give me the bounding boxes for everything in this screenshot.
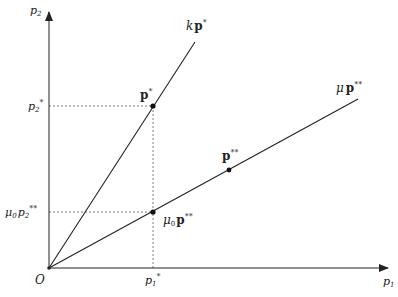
tick-label-p2-star: p2*: [28, 98, 44, 114]
point-label-mu0-p-double-star: μ0p**: [163, 212, 193, 228]
tick-label-p1-star: p1*: [145, 272, 161, 288]
point-p-double-star: [227, 168, 232, 173]
tick-label-mu0-p2-double-star: μ0p2**: [5, 204, 37, 220]
point-label-p-star: p*: [140, 87, 152, 102]
point-origin: [47, 266, 51, 270]
point-mu0-p-double-star: [150, 209, 155, 214]
ray-label-k-p-star: kp*: [186, 18, 207, 33]
origin-label: O: [35, 273, 45, 287]
ray-label-mu-p-double-star: μp**: [336, 80, 362, 95]
y-axis-label: p2: [30, 4, 42, 18]
x-axis-label: p1: [383, 275, 395, 289]
diagram-canvas: p2 p1 O kp* μp** p* p** μ0p** p2* μ0p2**…: [0, 0, 398, 297]
ray-k-p-star: [49, 42, 195, 268]
point-p-star: [150, 103, 155, 108]
ray-mu-p-double-star: [49, 99, 358, 268]
point-label-p-double-star: p**: [222, 148, 238, 163]
